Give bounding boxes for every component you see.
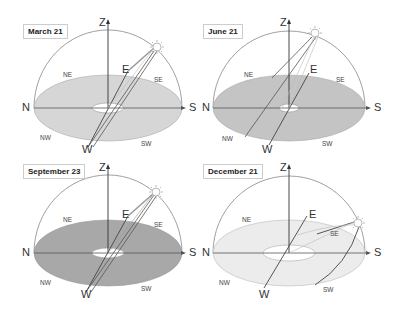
- panel-june-21: June 21 Z N S E W NE SE NW SW: [197, 0, 394, 155]
- sun-icon: [351, 216, 365, 230]
- label-w: W: [82, 144, 92, 155]
- label-e: E: [122, 209, 129, 220]
- label-n: N: [22, 247, 30, 258]
- label-sw: SW: [141, 286, 151, 293]
- label-s: S: [374, 247, 381, 258]
- label-nw: NW: [222, 136, 233, 143]
- label-n: N: [202, 247, 210, 258]
- label-z: Z: [280, 162, 287, 173]
- label-nw: NW: [40, 135, 51, 142]
- panel-march-21: March 21 Z N S E W NE SE NW SW: [0, 0, 197, 155]
- label-sw: SW: [141, 141, 151, 148]
- panel-december-21: December 21 Z N S E W NE SE NW SW: [197, 155, 394, 310]
- panel-title: September 23: [23, 164, 85, 179]
- label-e: E: [310, 64, 317, 75]
- label-n: N: [202, 102, 210, 113]
- label-se: SE: [336, 77, 345, 84]
- label-e: E: [122, 64, 129, 75]
- label-z: Z: [99, 162, 106, 173]
- label-ne: NE: [63, 72, 72, 79]
- label-ne: NE: [242, 217, 251, 224]
- label-ne: NE: [244, 72, 253, 79]
- label-w: W: [262, 144, 272, 155]
- label-s: S: [189, 102, 196, 113]
- label-w: W: [81, 289, 91, 300]
- label-nw: NW: [219, 280, 230, 287]
- label-sw: SW: [323, 287, 333, 294]
- label-se: SE: [154, 77, 163, 84]
- label-n: N: [22, 102, 30, 113]
- label-z: Z: [280, 17, 287, 28]
- panel-title: June 21: [203, 24, 243, 39]
- label-nw: NW: [40, 280, 51, 287]
- panel-title: December 21: [203, 164, 263, 179]
- label-e: E: [309, 209, 316, 220]
- sun-icon: [150, 40, 164, 54]
- label-w: W: [259, 289, 269, 300]
- panel-september-23: September 23 Z N S E W NE SE NW SW: [0, 155, 197, 310]
- label-sw: SW: [322, 141, 332, 148]
- label-z: Z: [99, 17, 106, 28]
- panel-title: March 21: [23, 24, 68, 39]
- label-s: S: [374, 102, 381, 113]
- label-se: SE: [154, 222, 163, 229]
- label-s: S: [189, 247, 196, 258]
- label-ne: NE: [63, 217, 72, 224]
- label-se: SE: [330, 231, 339, 238]
